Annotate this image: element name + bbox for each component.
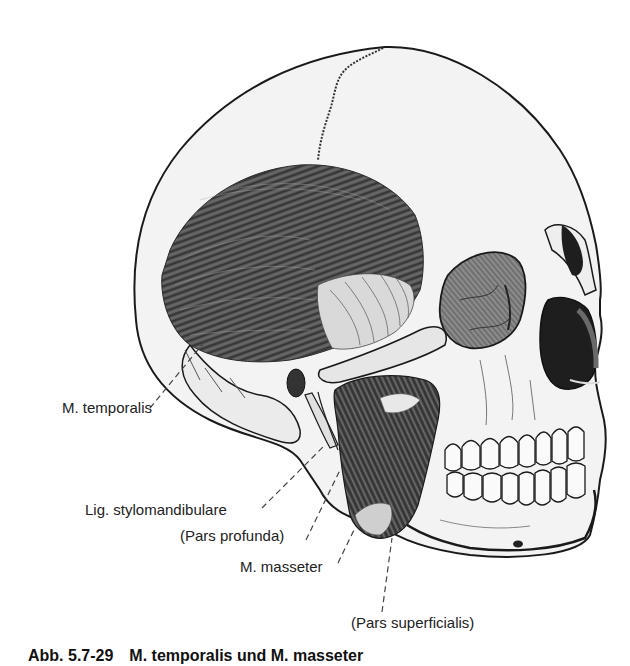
figure-caption: Abb. 5.7-29M. temporalis und M. masseter	[28, 645, 363, 666]
label-m-temporalis: M. temporalis	[62, 399, 152, 417]
leader-masseter	[338, 528, 355, 563]
label-lig-stylomandibulare: Lig. stylomandibulare	[85, 501, 227, 519]
label-pars-profunda: (Pars profunda)	[180, 527, 284, 545]
ear-canal	[287, 369, 305, 397]
mental-foramen	[513, 541, 523, 548]
leader-pars-superficialis	[382, 538, 392, 612]
nasal-aperture	[540, 298, 596, 389]
caption-number: Abb. 5.7-29	[28, 647, 113, 664]
label-m-masseter: M. masseter	[240, 558, 323, 576]
label-pars-superficialis: (Pars superficialis)	[351, 614, 474, 632]
caption-title: M. temporalis und M. masseter	[129, 647, 363, 664]
